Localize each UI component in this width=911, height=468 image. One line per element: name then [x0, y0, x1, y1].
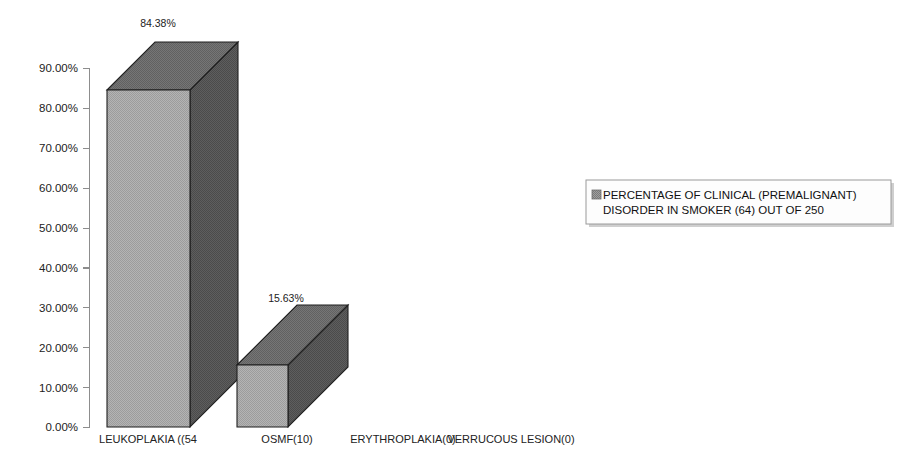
- bar-value-label-leukoplakia: 84.38%: [140, 17, 176, 29]
- bar-verrucous-lesion-front-face: [478, 426, 530, 427]
- chart-legend: PERCENTAGE OF CLINICAL (PREMALIGNANT) DI…: [586, 180, 894, 227]
- y-axis-label-50: 50.00%: [39, 222, 78, 234]
- y-axis-label-80: 80.00%: [39, 102, 78, 114]
- x-axis-label-erythroplakia: ERYTHROPLAKIA(0): [350, 433, 456, 445]
- y-axis-label-90: 90.00%: [39, 62, 78, 74]
- y-axis-label-70: 70.00%: [39, 142, 78, 154]
- bar-osmf[interactable]: [237, 305, 348, 427]
- bar-erythroplakia[interactable]: [366, 426, 418, 427]
- bar-value-label-osmf: 15.63%: [268, 292, 304, 304]
- bar-leukoplakia-front-face: [107, 90, 190, 427]
- y-axis-label-30: 30.00%: [39, 302, 78, 314]
- y-axis-label-20: 20.00%: [39, 342, 78, 354]
- x-axis-labels: LEUKOPLAKIA ((54 OSMF(10) ERYTHROPLAKIA(…: [99, 433, 574, 445]
- x-axis-label-verrucous-lesion: VERRUCOUS LESION(0): [447, 433, 574, 445]
- bar-osmf-front-face: [237, 365, 288, 427]
- y-axis-label-10: 10.00%: [39, 382, 78, 394]
- y-axis-label-40: 40.00%: [39, 262, 78, 274]
- bar-erythroplakia-front-face: [366, 426, 418, 427]
- y-axis: 90.00% 80.00% 70.00% 60.00% 50.00% 40.00…: [39, 62, 90, 433]
- bar-verrucous-lesion[interactable]: [478, 426, 530, 427]
- chart-container: 90.00% 80.00% 70.00% 60.00% 50.00% 40.00…: [0, 0, 911, 468]
- y-axis-label-0: 0.00%: [45, 421, 78, 433]
- y-axis-label-60: 60.00%: [39, 182, 78, 194]
- bar-chart-3d: 90.00% 80.00% 70.00% 60.00% 50.00% 40.00…: [0, 0, 911, 468]
- x-axis-label-osmf: OSMF(10): [261, 433, 312, 445]
- legend-box: [586, 180, 891, 224]
- bar-leukoplakia-side-face: [190, 42, 238, 427]
- legend-label-line-2: DISORDER IN SMOKER (64) OUT OF 250: [603, 204, 824, 216]
- legend-label-line-1: PERCENTAGE OF CLINICAL (PREMALIGNANT): [603, 189, 857, 201]
- x-axis-label-leukoplakia: LEUKOPLAKIA ((54: [99, 433, 197, 445]
- legend-color-swatch: [592, 190, 601, 199]
- bar-leukoplakia[interactable]: [107, 42, 238, 427]
- y-axis-ticks: [83, 69, 90, 428]
